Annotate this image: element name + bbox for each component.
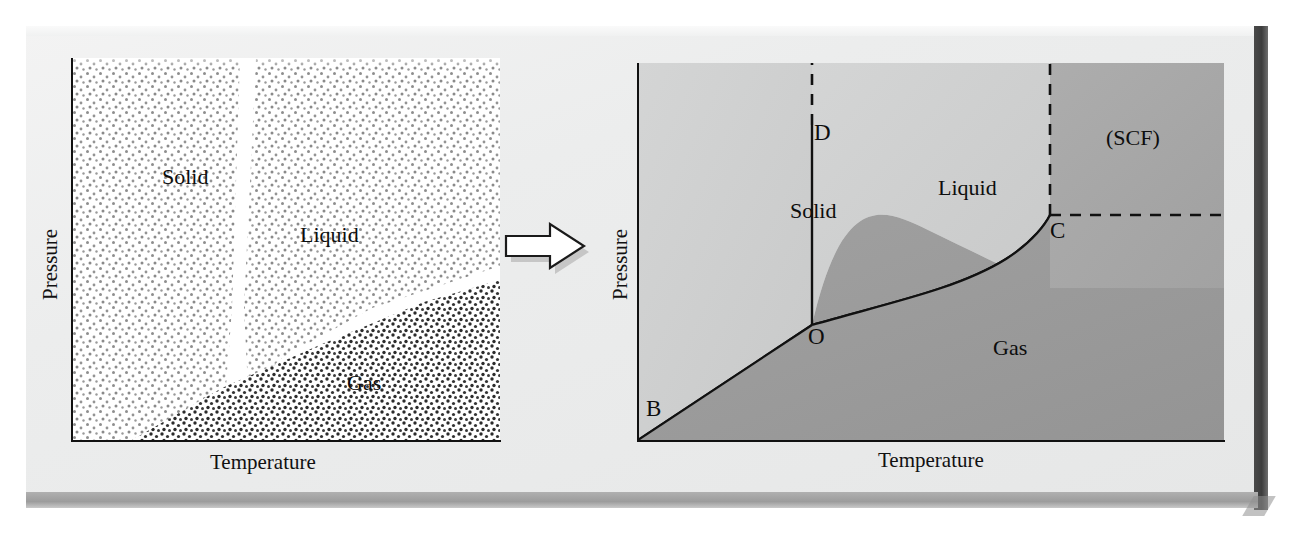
right-label-gas: Gas [993, 335, 1027, 361]
point-label-d: D [814, 120, 831, 146]
left-label-solid: Solid [162, 164, 208, 190]
right-phase-diagram: Solid Liquid Gas (SCF) B O C D Pressure … [600, 0, 1293, 500]
point-label-c: C [1050, 218, 1065, 244]
right-phase-svg [638, 63, 1224, 440]
right-y-axis-title: Pressure [608, 229, 633, 300]
right-arrow-icon [500, 216, 596, 276]
right-label-scf: (SCF) [1106, 125, 1160, 151]
right-label-liquid: Liquid [938, 175, 997, 201]
right-y-axis [637, 63, 639, 442]
left-x-axis [71, 440, 501, 442]
left-label-liquid: Liquid [300, 222, 359, 248]
right-x-axis [637, 440, 1225, 442]
left-solid-region [72, 58, 240, 440]
left-phase-diagram: Solid Liquid Gas Pressure Temperature [0, 0, 540, 500]
point-label-o: O [808, 324, 825, 350]
figure-root: Solid Liquid Gas Pressure Temperature [0, 0, 1293, 539]
right-label-solid: Solid [790, 198, 836, 224]
left-plot-area [72, 58, 500, 440]
left-y-axis-title: Pressure [38, 229, 63, 300]
point-label-b: B [646, 396, 661, 422]
left-x-axis-title: Temperature [210, 450, 316, 475]
left-label-gas: Gas [347, 370, 381, 396]
left-stipple-svg [72, 58, 500, 440]
right-plot-area [638, 63, 1224, 440]
left-y-axis [71, 58, 73, 442]
right-x-axis-title: Temperature [878, 448, 984, 473]
transition-arrow [500, 216, 596, 276]
